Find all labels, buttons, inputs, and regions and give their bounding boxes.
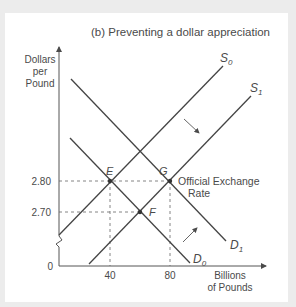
official-rate-label-line2: Rate (188, 187, 210, 199)
point-f-marker (138, 210, 142, 214)
x-tick-80: 80 (164, 270, 176, 281)
x-axis-label-line1: Billions (214, 270, 246, 281)
point-g-label: G (159, 165, 168, 177)
y-axis-label-line3: Pound (26, 78, 55, 89)
chart-title: (b) Preventing a dollar appreciation (91, 26, 270, 38)
point-g-marker (168, 179, 172, 183)
d0-label: D0 (193, 252, 207, 268)
s0-label: S0 (220, 51, 233, 67)
point-e-marker (108, 179, 112, 183)
chart-canvas: (b) Preventing a dollar appreciation Dol… (0, 0, 296, 307)
y-axis-label-line2: per (33, 66, 48, 77)
y-tick-2-70: 2.70 (32, 207, 52, 218)
official-rate-label-line1: Official Exchange (178, 175, 260, 187)
y-tick-origin: 0 (47, 261, 53, 272)
y-tick-2-80: 2.80 (32, 176, 52, 187)
point-f-label: F (149, 206, 157, 218)
x-tick-40: 40 (104, 270, 116, 281)
y-axis-label-line1: Dollars (24, 54, 55, 65)
s1-label: S1 (250, 81, 262, 97)
d1-label: D1 (230, 238, 243, 254)
supply-shift-arrow-icon (184, 119, 199, 133)
x-axis-label-line2: of Pounds (207, 282, 252, 293)
guide-lines (59, 181, 170, 266)
demand-shift-arrow-icon (183, 228, 197, 242)
demand-curve-d0 (70, 138, 190, 263)
point-e-label: E (106, 165, 114, 177)
